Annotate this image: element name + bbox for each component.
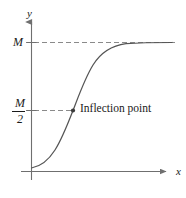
inflection-point-label: Inflection point	[80, 103, 151, 115]
x-axis-label: x	[176, 166, 181, 177]
logistic-curve-figure: y x M M 2 Inflection point	[0, 0, 186, 198]
y-axis-label: y	[27, 8, 32, 19]
fraction-numerator: M	[12, 97, 28, 110]
inflection-point-marker	[71, 108, 75, 112]
y-tick-label-M-half: M 2	[12, 97, 28, 125]
fraction-denominator: 2	[12, 113, 28, 126]
y-tick-label-M: M	[13, 36, 23, 48]
